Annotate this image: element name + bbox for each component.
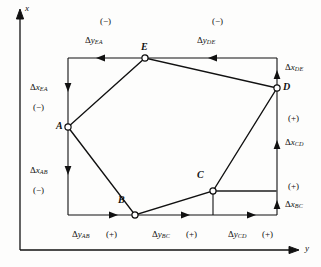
subscript: CD: [295, 140, 304, 147]
diagram-canvas: x y A B C D E (−) (−) ΔyEA ΔyDE ΔxEA (−)…: [0, 0, 321, 267]
x-axis-arrowhead: [16, 9, 23, 19]
label-delta-x-AB: ΔxAB: [30, 166, 48, 176]
direction-arrowheads: [65, 55, 281, 219]
subscript: CD: [238, 232, 247, 239]
arrow-dx-EA: [65, 83, 72, 92]
sign-top-right: (−): [212, 17, 223, 26]
sign-right-1: (+): [288, 114, 299, 123]
vertex-label-C: C: [197, 170, 204, 180]
arrow-dx-DE: [274, 70, 281, 79]
label-delta-y-EA: ΔyEA: [85, 36, 103, 46]
label-delta-y-AB: ΔyAB: [72, 230, 90, 240]
label-delta-x-DE: ΔxDE: [285, 63, 303, 73]
arrow-dy-EA: [96, 55, 105, 62]
sign-right-2: (+): [288, 182, 299, 191]
vertex-label-A: A: [56, 121, 63, 131]
x-axis-label: x: [25, 4, 29, 13]
subscript: EA: [40, 85, 48, 92]
subscript: EA: [95, 38, 103, 45]
subscript: DE: [295, 65, 304, 72]
vertex-markers: [65, 55, 280, 218]
arrow-dy-CD: [247, 212, 256, 219]
sign-left-lower: (−): [33, 186, 44, 195]
subscript: AB: [82, 232, 90, 239]
axes-group: [16, 9, 299, 254]
vertex-marker-B: [132, 212, 138, 218]
sign-left-upper: (−): [33, 103, 44, 112]
vertex-marker-E: [142, 55, 148, 61]
sign-top-left: (−): [100, 17, 111, 26]
label-delta-y-BC: ΔyBC: [152, 230, 170, 240]
y-axis-arrowhead: [289, 246, 299, 253]
vertex-label-D: D: [283, 82, 290, 92]
traverse-diagram-svg: [0, 0, 321, 267]
vertex-marker-A: [65, 124, 71, 130]
subscript: BC: [162, 232, 170, 239]
arrow-dx-AB: [65, 166, 72, 175]
y-axis-label: y: [305, 244, 309, 253]
label-delta-y-CD: ΔyCD: [228, 230, 247, 240]
arrow-dx-CD: [274, 140, 281, 149]
arrow-dy-BC: [181, 212, 190, 219]
label-delta-x-BC: ΔxBC: [285, 200, 303, 210]
sign-bottom-CD: (+): [262, 230, 273, 239]
arrow-dy-AB: [109, 212, 118, 219]
sign-bottom-BC: (+): [186, 230, 197, 239]
arrow-dx-BC: [274, 200, 281, 209]
subscript: AB: [40, 168, 48, 175]
vertex-label-E: E: [141, 42, 148, 52]
sign-bottom-AB: (+): [106, 230, 117, 239]
vertex-label-B: B: [118, 195, 125, 205]
vertex-marker-D: [274, 85, 280, 91]
label-delta-x-CD: ΔxCD: [285, 138, 304, 148]
subscript: DE: [207, 38, 216, 45]
arrow-dy-DE: [208, 55, 217, 62]
label-delta-y-DE: ΔyDE: [197, 36, 215, 46]
label-delta-x-EA: ΔxEA: [30, 83, 48, 93]
subscript: BC: [295, 202, 303, 209]
vertex-marker-C: [210, 188, 216, 194]
